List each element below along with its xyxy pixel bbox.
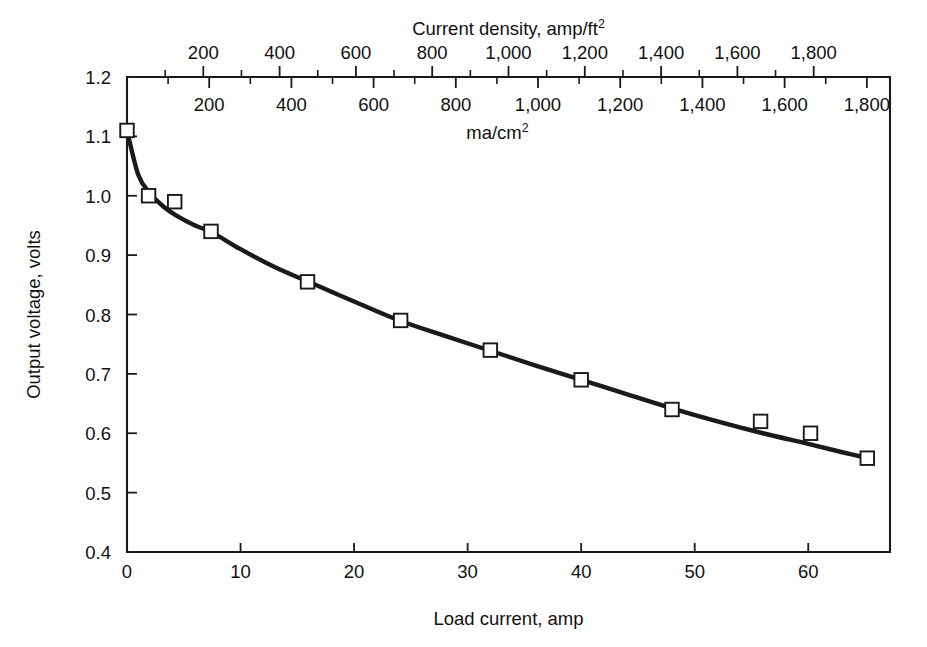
x-tick-label: 40 <box>571 561 592 582</box>
y-tick-label: 0.6 <box>85 423 111 444</box>
top-axis-tick-label: 1,400 <box>638 42 684 63</box>
y-tick-label: 1.1 <box>85 126 111 147</box>
top-axis-tick-label: 400 <box>264 42 295 63</box>
secondary-axis-tick-label: 800 <box>440 94 471 115</box>
top-axis-tick-labels: 2004006008001,0001,2001,4001,6001,800 <box>188 42 837 63</box>
secondary-axis-tick-label: 1,000 <box>515 94 561 115</box>
x-tick-label: 60 <box>798 561 819 582</box>
top-axis-tick-label: 1,000 <box>485 42 531 63</box>
top-axis-tick-label: 600 <box>340 42 371 63</box>
data-point-marker <box>204 225 218 239</box>
x-tick-label: 10 <box>230 561 251 582</box>
y-tick-label: 1.0 <box>85 186 111 207</box>
secondary-axis-title: ma/cm2 <box>466 121 529 143</box>
y-axis-tick-labels: 0.40.50.60.70.80.91.01.11.2 <box>85 67 111 563</box>
data-point-marker <box>142 189 156 203</box>
top-axis-tick-label: 1,800 <box>791 42 837 63</box>
top-axis-tick-label: 1,200 <box>562 42 608 63</box>
secondary-axis-tick-labels: 2004006008001,0001,2001,4001,6001,800 <box>194 94 890 115</box>
secondary-axis-tick-label: 200 <box>194 94 225 115</box>
secondary-axis-tick-label: 1,400 <box>679 94 725 115</box>
data-point-marker <box>754 415 768 429</box>
y-tick-label: 0.9 <box>85 245 111 266</box>
chart-figure: 0102030405060 0.40.50.60.70.80.91.01.11.… <box>0 0 927 647</box>
secondary-axis-tick-label: 400 <box>276 94 307 115</box>
top-axis-tick-label: 1,600 <box>714 42 760 63</box>
data-point-marker <box>665 403 679 417</box>
x-tick-label: 0 <box>122 561 132 582</box>
data-point-marker <box>574 373 588 387</box>
y-tick-label: 0.5 <box>85 483 111 504</box>
secondary-axis-tick-label: 600 <box>358 94 389 115</box>
y-tick-label: 1.2 <box>85 67 111 88</box>
secondary-axis-tick-label: 1,200 <box>597 94 643 115</box>
data-point-marker <box>861 451 875 465</box>
data-point-marker <box>168 195 182 209</box>
top-axis-tick-label: 200 <box>188 42 219 63</box>
top-axis-title: Current density, amp/ft2 <box>412 17 605 39</box>
secondary-axis-tick-label: 1,600 <box>761 94 807 115</box>
output-voltage-vs-load-current-chart: 0102030405060 0.40.50.60.70.80.91.01.11.… <box>0 0 927 647</box>
x-tick-label: 50 <box>684 561 705 582</box>
y-axis-title: Output voltage, volts <box>23 230 44 399</box>
x-axis-title: Load current, amp <box>433 608 583 629</box>
x-tick-label: 30 <box>457 561 478 582</box>
data-point-marker <box>120 124 134 138</box>
x-tick-label: 20 <box>344 561 365 582</box>
data-point-marker <box>804 427 818 441</box>
top-axis-tick-label: 800 <box>417 42 448 63</box>
y-tick-label: 0.8 <box>85 305 111 326</box>
data-point-marker <box>484 343 498 357</box>
y-tick-label: 0.7 <box>85 364 111 385</box>
secondary-axis-tick-label: 1,800 <box>844 94 890 115</box>
data-point-marker <box>394 314 408 328</box>
y-tick-label: 0.4 <box>85 542 111 563</box>
data-point-marker <box>301 275 315 289</box>
